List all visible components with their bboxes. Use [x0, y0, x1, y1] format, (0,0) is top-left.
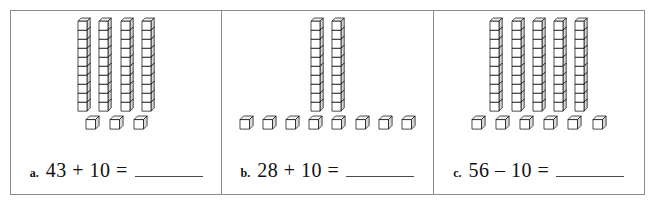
problem-equation: b.28 + 10 = [222, 159, 432, 182]
equation-text: 28 + 10 = [257, 159, 339, 182]
problem-letter-label: b. [241, 166, 251, 181]
unit-cube [567, 115, 582, 130]
problem-letter-label: c. [453, 166, 461, 181]
unit-cube [592, 115, 607, 130]
tens-rod [489, 17, 503, 112]
unit-cube [543, 115, 558, 130]
tens-rod [331, 17, 345, 112]
unit-cube [285, 115, 300, 130]
base-ten-blocks-illustration [222, 11, 432, 141]
unit-cube-group [222, 115, 432, 130]
unit-cube [495, 115, 510, 130]
problem-panel: b.28 + 10 = [221, 11, 432, 194]
tens-rod [553, 17, 567, 112]
unit-cube [331, 115, 346, 130]
tens-rod [511, 17, 525, 112]
tens-rod [141, 17, 155, 112]
unit-cube [262, 115, 277, 130]
unit-cube [471, 115, 486, 130]
unit-cube [355, 115, 370, 130]
unit-cube [308, 115, 323, 130]
tens-rod [310, 17, 324, 112]
tens-rod [574, 17, 588, 112]
equation-text: 56 – 10 = [469, 159, 550, 182]
answer-blank[interactable] [556, 162, 624, 177]
answer-blank[interactable] [135, 162, 203, 177]
unit-cube [519, 115, 534, 130]
problem-equation: a.43 + 10 = [11, 159, 221, 182]
unit-cube [239, 115, 254, 130]
tens-rod-group [11, 17, 221, 112]
problem-equation: c.56 – 10 = [434, 159, 644, 182]
problem-letter-label: a. [30, 166, 39, 181]
tens-rod [532, 17, 546, 112]
tens-rod [120, 17, 134, 112]
problem-panel: c.56 – 10 = [433, 11, 644, 194]
tens-rod [77, 17, 91, 112]
answer-blank[interactable] [346, 162, 414, 177]
problem-panel: a.43 + 10 = [11, 11, 221, 194]
equation-text: 43 + 10 = [46, 159, 128, 182]
unit-cube [133, 115, 148, 130]
worksheet-frame: a.43 + 10 =b.28 + 10 =c.56 – 10 = [10, 10, 645, 195]
unit-cube [401, 115, 416, 130]
tens-rod-group [222, 17, 432, 112]
unit-cube [109, 115, 124, 130]
unit-cube-group [434, 115, 644, 130]
tens-rod-group [434, 17, 644, 112]
unit-cube [378, 115, 393, 130]
base-ten-blocks-illustration [434, 11, 644, 141]
tens-rod [98, 17, 112, 112]
base-ten-blocks-illustration [11, 11, 221, 141]
unit-cube [85, 115, 100, 130]
unit-cube-group [11, 115, 221, 130]
